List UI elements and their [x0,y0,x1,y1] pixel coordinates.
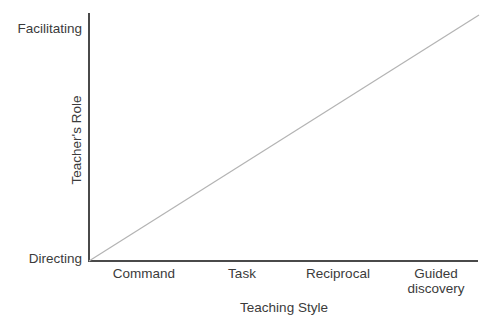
x-tick-label-guided-discovery-line2: discovery [407,281,464,296]
x-tick-label-command: Command [113,266,175,281]
y-tick-label-facilitating: Facilitating [17,21,82,36]
x-tick-label-command-line1: Command [113,266,175,281]
x-tick-label-guided-discovery: Guided discovery [407,266,464,296]
teaching-style-chart: Facilitating Directing Teacher's Role Co… [0,0,503,325]
x-axis-title: Teaching Style [240,300,328,315]
plot-area [88,13,480,262]
x-tick-label-guided-discovery-line1: Guided [414,266,458,281]
x-tick-label-task-line1: Task [228,266,256,281]
y-tick-label-directing: Directing [29,251,82,266]
x-tick-label-reciprocal-line1: Reciprocal [306,266,370,281]
x-tick-label-task: Task [228,266,256,281]
trend-line [89,15,479,261]
x-tick-label-reciprocal: Reciprocal [306,266,370,281]
trend-line-svg [88,13,480,262]
y-axis-title: Teacher's Role [69,96,84,185]
